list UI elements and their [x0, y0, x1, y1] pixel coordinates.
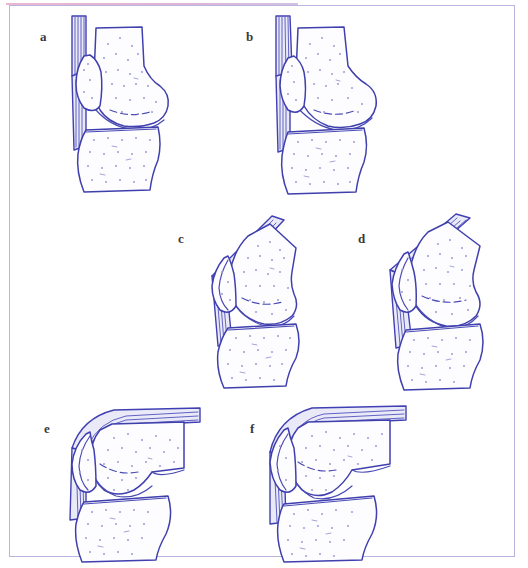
panel-f-figure: [256, 400, 421, 565]
femur-d: [410, 222, 480, 328]
tibia-a: [78, 127, 160, 192]
panel-c-figure: [184, 212, 334, 392]
figure-root: a: [0, 0, 528, 568]
femur-e: [90, 422, 184, 497]
tibia-f: [278, 496, 377, 562]
tibia-c: [218, 324, 299, 388]
tibia-b: [282, 128, 367, 194]
panel-d-figure: [366, 212, 516, 392]
panel-d-label: d: [358, 232, 365, 245]
femur-a: [94, 27, 168, 130]
panel-grid: a: [0, 0, 528, 568]
panel-b-figure: [252, 14, 402, 204]
panel-a-figure: [46, 14, 196, 204]
patella-b: [280, 56, 306, 112]
femur-b: [296, 27, 376, 130]
panel-e-label: e: [44, 422, 50, 435]
femur-c: [230, 224, 297, 326]
panel-e-figure: [52, 400, 217, 565]
femur-f: [288, 420, 390, 499]
panel-f-label: f: [250, 422, 254, 435]
patella-a: [76, 55, 102, 111]
panel-c-label: c: [178, 232, 184, 245]
